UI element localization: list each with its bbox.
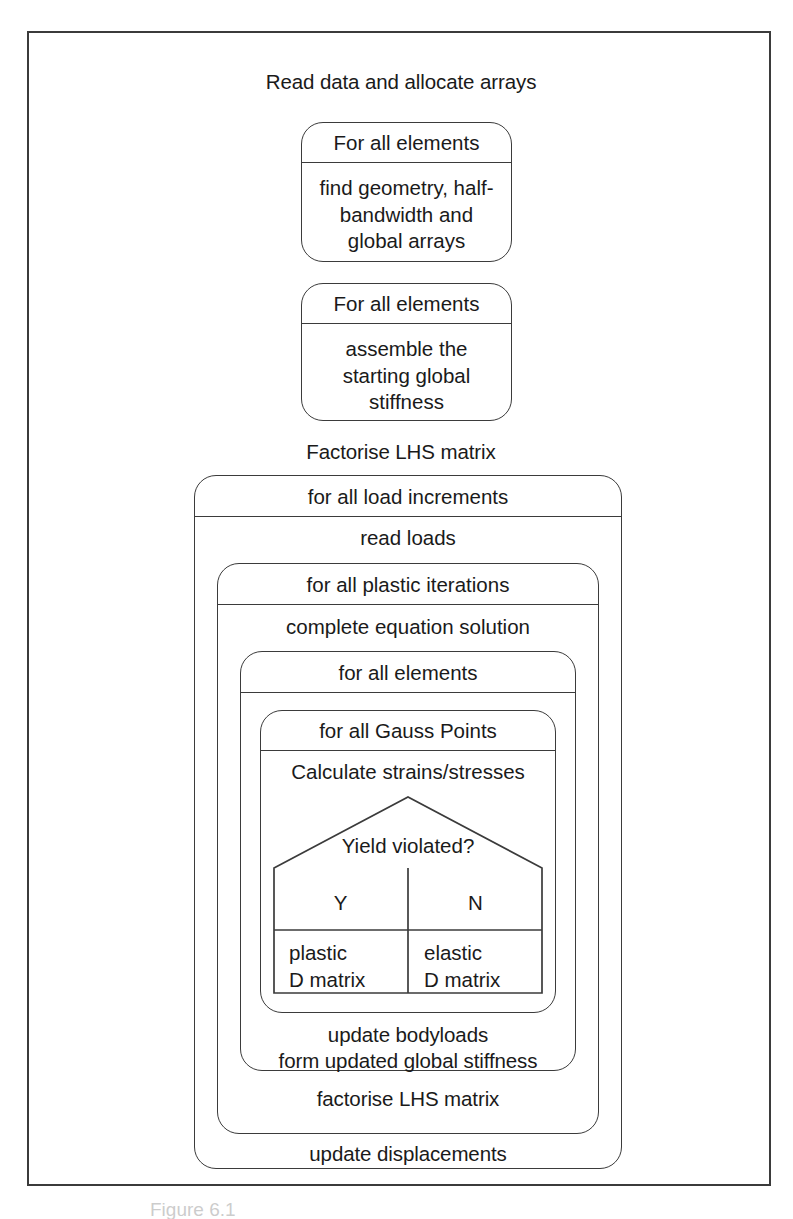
step-factorise-lhs-top: Factorise LHS matrix — [29, 439, 773, 465]
step-factorise-lhs-inner: factorise LHS matrix — [217, 1086, 599, 1112]
decision-yield-violated: Yield violated? Y N plastic D matrix ela… — [273, 794, 543, 994]
decision-branch-no-label: N — [408, 891, 543, 915]
loop-header-gauss-points: for all Gauss Points — [261, 711, 555, 751]
loop-body-assemble: assemble the starting global stiffness — [302, 336, 511, 416]
decision-branch-yes-label: Y — [273, 891, 408, 915]
loop-header-geometry: For all elements — [302, 123, 511, 163]
loop-box-geometry: For all elements find geometry, half- ba… — [301, 122, 512, 262]
structured-flowchart: Read data and allocate arrays For all el… — [29, 33, 773, 1188]
loop-header-elements: for all elements — [241, 652, 575, 693]
loop-body-calculate-strains: Calculate strains/stresses — [261, 757, 555, 787]
decision-branch-no-body: elastic D matrix — [424, 940, 543, 993]
step-update-displacements: update displacements — [194, 1141, 622, 1167]
loop-header-assemble: For all elements — [302, 284, 511, 324]
step-update-bodyloads: update bodyloads form updated global sti… — [240, 1022, 576, 1074]
loop-header-load-increments: for all load increments — [195, 476, 621, 517]
loop-body-complete-equation-solution: complete equation solution — [218, 611, 598, 642]
loop-body-read-loads: read loads — [195, 523, 621, 553]
loop-body-geometry: find geometry, half- bandwidth and globa… — [302, 175, 511, 255]
decision-question-label: Yield violated? — [273, 834, 543, 858]
step-read-data: Read data and allocate arrays — [29, 69, 773, 95]
decision-branch-yes-body: plastic D matrix — [289, 940, 408, 993]
loop-header-plastic-iterations: for all plastic iterations — [218, 564, 598, 605]
loop-box-assemble: For all elements assemble the starting g… — [301, 283, 512, 421]
figure-caption: Figure 6.1 — [150, 1199, 670, 1219]
figure-frame: Read data and allocate arrays For all el… — [27, 31, 771, 1186]
